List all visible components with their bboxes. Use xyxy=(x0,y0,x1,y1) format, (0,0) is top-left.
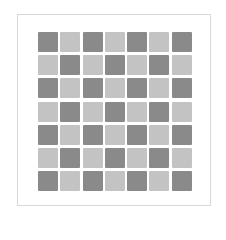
grid-cell-dark xyxy=(38,171,58,191)
grid-cell-dark xyxy=(83,171,103,191)
grid-cell-light xyxy=(127,148,147,168)
grid-cell-dark xyxy=(127,78,147,98)
grid-cell-light xyxy=(60,78,80,98)
grid-cell-dark xyxy=(105,148,125,168)
grid-cell-dark xyxy=(149,148,169,168)
grid-cell-dark xyxy=(60,102,80,122)
grid-cell-light xyxy=(105,171,125,191)
grid-cell-dark xyxy=(105,102,125,122)
grid-cell-light xyxy=(149,171,169,191)
checkerboard-grid xyxy=(38,32,192,192)
grid-cell-light xyxy=(172,102,192,122)
grid-cell-light xyxy=(149,125,169,145)
grid-cell-light xyxy=(83,102,103,122)
grid-cell-light xyxy=(105,32,125,52)
grid-cell-light xyxy=(60,171,80,191)
grid-cell-light xyxy=(83,55,103,75)
grid-cell-light xyxy=(38,55,58,75)
grid-cell-dark xyxy=(127,32,147,52)
grid-cell-dark xyxy=(83,32,103,52)
grid-cell-light xyxy=(172,148,192,168)
grid-cell-dark xyxy=(38,78,58,98)
grid-cell-dark xyxy=(38,32,58,52)
grid-cell-dark xyxy=(127,171,147,191)
grid-cell-dark xyxy=(105,55,125,75)
grid-cell-light xyxy=(127,55,147,75)
grid-cell-dark xyxy=(172,32,192,52)
grid-cell-dark xyxy=(83,78,103,98)
grid-cell-light xyxy=(38,148,58,168)
grid-cell-light xyxy=(149,32,169,52)
grid-cell-dark xyxy=(172,125,192,145)
grid-cell-dark xyxy=(60,148,80,168)
grid-cell-dark xyxy=(149,55,169,75)
grid-cell-dark xyxy=(83,125,103,145)
grid-cell-light xyxy=(60,125,80,145)
grid-cell-dark xyxy=(149,102,169,122)
grid-cell-dark xyxy=(172,78,192,98)
grid-cell-light xyxy=(172,55,192,75)
grid-cell-light xyxy=(105,78,125,98)
grid-cell-light xyxy=(127,102,147,122)
grid-cell-dark xyxy=(127,125,147,145)
grid-cell-light xyxy=(83,148,103,168)
grid-cell-light xyxy=(105,125,125,145)
grid-cell-dark xyxy=(60,55,80,75)
grid-cell-light xyxy=(60,32,80,52)
grid-cell-dark xyxy=(172,171,192,191)
grid-cell-dark xyxy=(38,125,58,145)
grid-cell-light xyxy=(38,102,58,122)
grid-cell-light xyxy=(149,78,169,98)
